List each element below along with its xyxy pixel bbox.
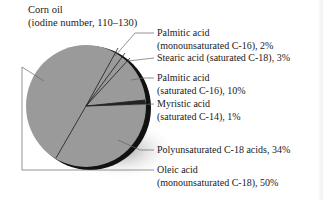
page-edge (317, 0, 323, 200)
label-text: Oleic acid (157, 164, 278, 177)
label-text: (saturated C-14), 1% (157, 111, 241, 124)
label-text: Stearic acid (saturated C-18), 3% (157, 52, 290, 65)
label-text: (saturated C-16), 10% (157, 85, 246, 98)
label-text: (monounsaturated C-18), 50% (157, 177, 278, 190)
label-oleic: Oleic acid (monounsaturated C-18), 50% (157, 164, 278, 189)
label-text: (monounsaturated C-16), 2% (157, 40, 273, 53)
label-myristic: Myristic acid (saturated C-14), 1% (157, 98, 241, 123)
label-stearic: Stearic acid (saturated C-18), 3% (157, 52, 290, 65)
label-polyunsaturated: Polyunsaturated C-18 acids, 34% (157, 144, 290, 157)
label-text: Myristic acid (157, 98, 241, 111)
label-text: Palmitic acid (157, 72, 246, 85)
label-text: Palmitic acid (157, 27, 273, 40)
label-text: Polyunsaturated C-18 acids, 34% (157, 144, 290, 157)
label-palmitic-mono: Palmitic acid (monounsaturated C-16), 2% (157, 27, 273, 52)
label-palmitic-sat: Palmitic acid (saturated C-16), 10% (157, 72, 246, 97)
